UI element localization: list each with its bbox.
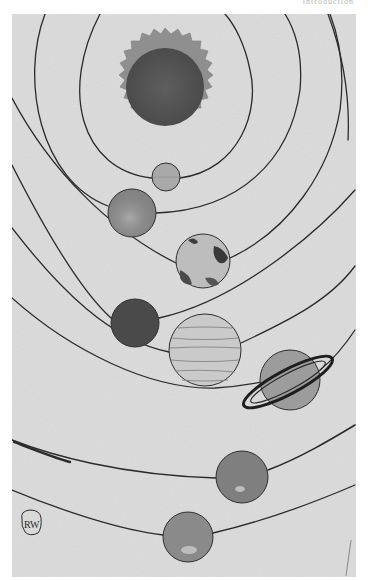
planet-mercury (152, 163, 180, 191)
solar-system-illustration: RW (12, 14, 356, 577)
sun-core (126, 48, 204, 126)
planet-uranus (216, 451, 268, 503)
planet-jupiter (169, 314, 241, 386)
planet-neptune (163, 512, 213, 562)
planet-mars (111, 299, 159, 347)
planet-venus (108, 189, 156, 237)
running-head: Introduction (302, 0, 354, 6)
planet-earth (176, 234, 230, 288)
svg-text:RW: RW (24, 519, 40, 530)
